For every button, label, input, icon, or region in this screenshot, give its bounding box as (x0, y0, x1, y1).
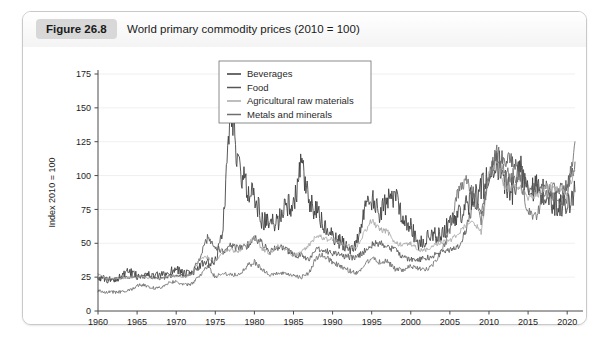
svg-text:2005: 2005 (440, 317, 460, 325)
svg-text:50: 50 (81, 238, 91, 248)
figure-panel: Figure 26.8 World primary commodity pric… (22, 11, 587, 325)
svg-text:Index 2010 = 100: Index 2010 = 100 (47, 158, 57, 228)
legend-label-1: Food (247, 82, 269, 93)
svg-text:25: 25 (81, 272, 91, 282)
svg-text:1960: 1960 (88, 317, 108, 325)
chart-legend: BeveragesFoodAgricultural raw materialsM… (219, 61, 371, 123)
legend-label-0: Beverages (247, 68, 293, 79)
svg-text:1980: 1980 (244, 317, 264, 325)
svg-text:100: 100 (76, 171, 91, 181)
x-axis-tick-labels: 1960196519701975198019851990199520002005… (88, 317, 577, 325)
svg-text:0: 0 (86, 306, 91, 316)
svg-text:1975: 1975 (205, 317, 225, 325)
svg-text:125: 125 (76, 137, 91, 147)
series-line-metals-and-minerals (98, 142, 575, 294)
svg-text:1965: 1965 (127, 317, 147, 325)
legend-label-3: Metals and minerals (247, 109, 332, 120)
svg-text:1995: 1995 (362, 317, 382, 325)
svg-text:175: 175 (76, 69, 91, 79)
svg-text:2015: 2015 (518, 317, 538, 325)
svg-text:2000: 2000 (401, 317, 421, 325)
chart-plot-area: 0255075100125150175 19601965197019751980… (23, 47, 586, 324)
figure-header: Figure 26.8 World primary commodity pric… (23, 12, 586, 48)
y-axis-tick-labels: 0255075100125150175 (76, 69, 91, 316)
svg-text:150: 150 (76, 103, 91, 113)
figure-title: World primary commodity prices (2010 = 1… (127, 19, 360, 39)
svg-text:75: 75 (81, 205, 91, 215)
svg-text:2010: 2010 (479, 317, 499, 325)
legend-label-2: Agricultural raw materials (247, 95, 354, 106)
svg-text:1985: 1985 (283, 317, 303, 325)
line-chart: 0255075100125150175 19601965197019751980… (23, 47, 588, 325)
y-axis-title: Index 2010 = 100 (47, 158, 57, 228)
figure-number-badge: Figure 26.8 (36, 19, 117, 39)
svg-text:2020: 2020 (557, 317, 577, 325)
svg-text:1990: 1990 (323, 317, 343, 325)
svg-text:1970: 1970 (166, 317, 186, 325)
